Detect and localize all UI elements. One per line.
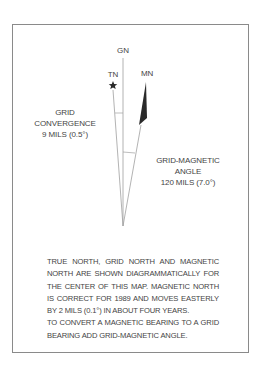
- declination-note-paragraph: TRUE NORTH, GRID NORTH AND MAGNETIC NORT…: [47, 256, 219, 317]
- true-north-label: TN: [103, 69, 123, 80]
- true-north-star-icon: [109, 81, 118, 89]
- true-north-line: [113, 90, 123, 226]
- grid-convergence-value: 9 MILS (0.5°): [30, 129, 100, 140]
- declination-notes: TRUE NORTH, GRID NORTH AND MAGNETIC NORT…: [47, 256, 219, 342]
- grid-magnetic-angle-value: 120 MILS (7.0°): [150, 177, 226, 188]
- grid-magnetic-arc: [123, 152, 135, 153]
- grid-north-label: GN: [113, 45, 133, 56]
- grid-convergence-label: GRID CONVERGENCE 9 MILS (0.5°): [30, 107, 100, 140]
- conversion-note-paragraph: TO CONVERT A MAGNETIC BEARING TO A GRID …: [47, 317, 219, 342]
- magnetic-north-arrow-icon: [139, 82, 147, 125]
- grid-magnetic-angle-label: GRID-MAGNETIC ANGLE 120 MILS (7.0°): [150, 155, 226, 188]
- magnetic-north-label: MN: [136, 68, 158, 79]
- magnetic-north-line: [123, 125, 141, 226]
